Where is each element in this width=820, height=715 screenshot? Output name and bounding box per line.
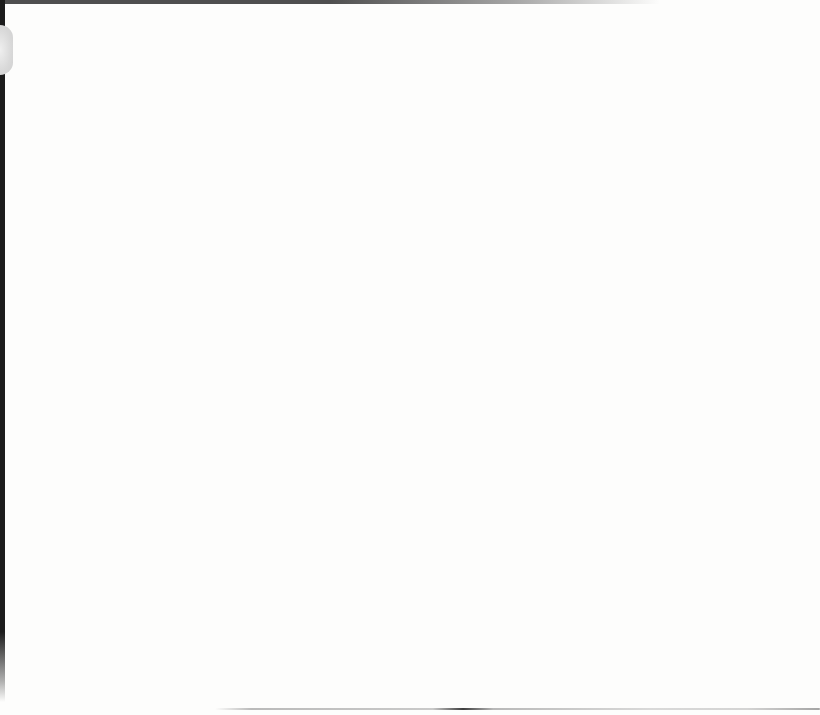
top-scan-edge-shadow <box>0 0 660 4</box>
scan-canvas: { "document": { "kind": "scanned blank b… <box>0 0 820 715</box>
page-curl-bump <box>0 25 13 75</box>
book-spine-edge <box>0 0 5 702</box>
bottom-crease-line <box>215 708 820 710</box>
scanned-page <box>0 0 820 715</box>
